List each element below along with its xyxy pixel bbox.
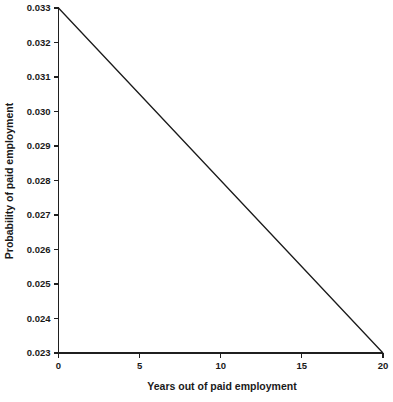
- line-chart: 0.0230.0240.0250.0260.0270.0280.0290.030…: [0, 0, 393, 402]
- y-tick-label: 0.025: [27, 278, 51, 289]
- y-tick-label: 0.028: [27, 175, 51, 186]
- chart-figure: 0.0230.0240.0250.0260.0270.0280.0290.030…: [0, 0, 393, 402]
- y-tick-label: 0.024: [27, 313, 51, 324]
- x-tick-label: 10: [215, 360, 226, 371]
- y-tick-label: 0.029: [27, 140, 51, 151]
- x-tick-label: 0: [56, 360, 61, 371]
- x-axis-title: Years out of paid employment: [147, 380, 297, 392]
- x-tick-label: 15: [297, 360, 308, 371]
- y-tick-label: 0.033: [27, 2, 51, 13]
- y-tick-label: 0.032: [27, 37, 51, 48]
- y-tick-label: 0.030: [27, 106, 51, 117]
- y-tick-label: 0.027: [27, 209, 51, 220]
- x-tick-label: 20: [378, 360, 389, 371]
- y-tick-label: 0.023: [27, 347, 51, 358]
- y-tick-label: 0.031: [27, 71, 51, 82]
- y-tick-label: 0.026: [27, 244, 51, 255]
- y-axis-title: Probability of paid employment: [3, 102, 15, 259]
- x-tick-label: 5: [137, 360, 143, 371]
